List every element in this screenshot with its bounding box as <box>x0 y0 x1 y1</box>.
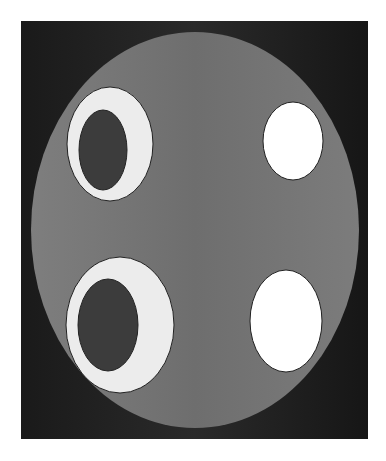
phantom-figure <box>0 0 386 461</box>
bottom-left-ring-inner <box>78 279 138 371</box>
bottom-right-disk <box>250 270 322 372</box>
top-right-disk <box>263 102 323 180</box>
top-left-ring-inner <box>79 110 127 190</box>
